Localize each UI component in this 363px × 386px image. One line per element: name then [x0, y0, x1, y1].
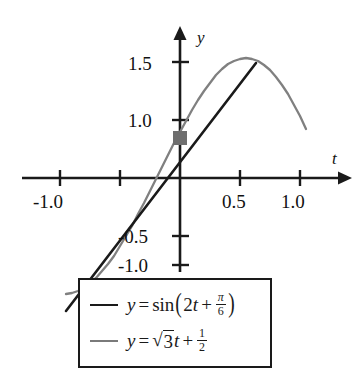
y-tick-label-neg-1-0: -1.0 [118, 256, 148, 275]
close-paren: ) [228, 293, 234, 314]
equation-lhs: y [127, 294, 135, 316]
legend-swatch-sine-curve [90, 304, 118, 306]
x-tick-label-neg-1-0: -1.0 [33, 192, 63, 211]
legend-swatch-tangent-line [90, 340, 118, 342]
y-tick-label-neg-0-5: -0.5 [118, 227, 148, 246]
y-tick-label-1-0: 1.0 [128, 111, 152, 130]
fraction-numerator: π [216, 291, 226, 304]
radicand: 3 [163, 330, 175, 353]
legend-equation-tangent-line: y = √ 3 t + 1 2 [127, 328, 208, 354]
fraction-numerator: 1 [197, 327, 207, 340]
arg-coefficient: 2 [183, 294, 193, 316]
legend-item-sine-curve: y = sin ( 2 t + π 6 ) [90, 290, 236, 320]
legend-equation-sine-curve: y = sin ( 2 t + π 6 ) [127, 292, 236, 318]
t-axis [22, 172, 352, 185]
x-tick-label-1-0: 1.0 [281, 192, 305, 211]
linear-variable: t [174, 330, 179, 352]
legend: y = sin ( 2 t + π 6 ) y = √ 3 t + 1 [78, 278, 272, 368]
one-half-fraction: 1 2 [197, 327, 207, 353]
y-tick-label-1-5: 1.5 [128, 54, 152, 73]
sine-curve [66, 58, 306, 294]
arg-variable: t [193, 294, 198, 316]
plus-sign: + [182, 330, 193, 352]
sin-function-name: sin [152, 294, 174, 316]
x-tick-label-0-5: 0.5 [222, 192, 246, 211]
open-paren: ( [176, 293, 182, 314]
y-axis-label: y [197, 29, 205, 46]
square-root-of-three: √ 3 [152, 329, 174, 353]
t-axis-label: t [332, 150, 337, 167]
equals-sign: = [138, 330, 149, 352]
equation-lhs: y [127, 330, 135, 352]
plus-sign: + [201, 294, 212, 316]
fraction-denominator: 6 [216, 304, 226, 318]
radical-sign: √ [152, 329, 162, 353]
tangent-line [66, 63, 256, 311]
pi-over-six-fraction: π 6 [216, 291, 226, 317]
fraction-denominator: 2 [197, 340, 207, 354]
tangency-point-marker [173, 131, 187, 145]
legend-item-tangent-line: y = √ 3 t + 1 2 [90, 326, 208, 356]
equals-sign: = [138, 294, 149, 316]
